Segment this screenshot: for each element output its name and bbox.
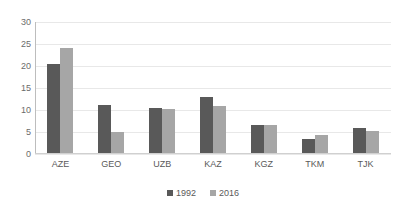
bar-kaz-1992[interactable] <box>200 97 213 154</box>
bar-kaz-2016[interactable] <box>213 106 226 154</box>
legend-swatch-icon <box>167 190 173 196</box>
bar-uzb-2016[interactable] <box>162 109 175 154</box>
y-axis-tick-label: 0 <box>3 150 31 159</box>
legend-item-2016[interactable]: 2016 <box>210 189 239 198</box>
bar-aze-2016[interactable] <box>60 48 73 154</box>
bar-tkm-2016[interactable] <box>315 135 328 154</box>
legend-swatch-icon <box>210 190 216 196</box>
x-axis-tick-label: AZE <box>35 157 86 171</box>
bar-tjk-1992[interactable] <box>353 128 366 154</box>
bar-tkm-1992[interactable] <box>302 139 315 154</box>
bar-group <box>340 22 391 154</box>
legend-item-1992[interactable]: 1992 <box>167 189 196 198</box>
y-axis-tick-label: 20 <box>3 62 31 71</box>
x-axis-tick-label: KAZ <box>188 157 239 171</box>
bar-tjk-2016[interactable] <box>366 131 379 154</box>
y-axis-tick-label: 30 <box>3 18 31 27</box>
x-axis: AZEGEOUZBKAZKGZTKMTJK <box>35 157 391 171</box>
bar-group <box>188 22 239 154</box>
bar-uzb-1992[interactable] <box>149 108 162 154</box>
bar-group <box>238 22 289 154</box>
bar-aze-1992[interactable] <box>47 64 60 154</box>
y-axis-tick-label: 5 <box>3 128 31 137</box>
bar-groups <box>35 22 391 154</box>
bar-group <box>137 22 188 154</box>
y-axis: 051015202530 <box>0 22 31 154</box>
x-axis-tick-label: TKM <box>289 157 340 171</box>
bar-group <box>86 22 137 154</box>
bar-kgz-1992[interactable] <box>251 125 264 154</box>
y-axis-line <box>35 22 36 154</box>
bar-kgz-2016[interactable] <box>264 125 277 154</box>
chart-legend: 19922016 <box>0 186 406 200</box>
x-axis-tick-label: GEO <box>86 157 137 171</box>
x-axis-tick-label: TJK <box>340 157 391 171</box>
bar-group <box>35 22 86 154</box>
bar-geo-1992[interactable] <box>98 105 111 154</box>
x-axis-line <box>35 153 391 154</box>
x-axis-tick-label: UZB <box>137 157 188 171</box>
y-axis-tick-label: 25 <box>3 40 31 49</box>
legend-label: 2016 <box>219 189 239 198</box>
bar-geo-2016[interactable] <box>111 132 124 154</box>
gridline <box>35 154 391 155</box>
plot-area <box>35 22 391 154</box>
bar-chart: 051015202530 AZEGEOUZBKAZKGZTKMTJK 19922… <box>0 0 406 207</box>
y-axis-tick-label: 10 <box>3 106 31 115</box>
x-axis-tick-label: KGZ <box>238 157 289 171</box>
y-axis-tick-label: 15 <box>3 84 31 93</box>
bar-group <box>289 22 340 154</box>
legend-label: 1992 <box>176 189 196 198</box>
